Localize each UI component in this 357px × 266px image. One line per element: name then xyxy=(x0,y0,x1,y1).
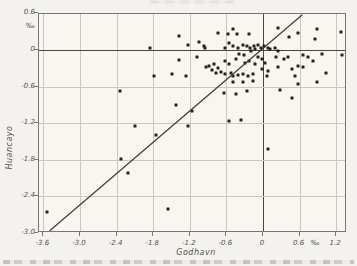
scatter-point xyxy=(231,74,234,77)
y-axis-title: Huancayo xyxy=(5,118,14,178)
scatter-point xyxy=(185,74,188,77)
scatter-point xyxy=(210,68,213,71)
scatter-point xyxy=(167,207,170,210)
scatter-point xyxy=(263,62,266,65)
scatter-point xyxy=(240,118,243,121)
scatter-point xyxy=(312,59,315,62)
scanned-figure-page: -3.6-3.0-2.4-1.8-1.2-0.600.61.20.60-0.6-… xyxy=(0,0,357,266)
scatter-point xyxy=(120,158,123,161)
scatter-point xyxy=(197,41,200,44)
x-axis-tick xyxy=(262,232,263,236)
x-axis-tick xyxy=(152,232,153,236)
scatter-point xyxy=(231,81,234,84)
scatter-point xyxy=(133,124,136,127)
scatter-point xyxy=(297,83,300,86)
scatter-point xyxy=(241,72,244,75)
scatter-point xyxy=(277,66,280,69)
scatter-point xyxy=(238,53,241,56)
scatter-point xyxy=(296,31,299,34)
scatter-point xyxy=(274,46,277,49)
scatter-point xyxy=(119,89,122,92)
scatter-point xyxy=(306,56,309,59)
scatter-point xyxy=(266,69,269,72)
x-axis-tick xyxy=(335,232,336,236)
scatter-point xyxy=(178,34,181,37)
scatter-point xyxy=(249,50,252,53)
scatter-point xyxy=(277,27,280,30)
scatter-point xyxy=(196,56,199,59)
scatter-point xyxy=(325,71,328,74)
scatter-point xyxy=(279,88,282,91)
scatter-point xyxy=(293,74,296,77)
scatter-point xyxy=(222,91,225,94)
scatter-point xyxy=(186,44,189,47)
scatter-point xyxy=(251,79,254,82)
scatter-point xyxy=(313,38,316,41)
scatter-point xyxy=(241,44,244,47)
y-gridline xyxy=(39,123,345,124)
y-axis-tick-label: -0.6 xyxy=(6,82,35,90)
scatter-point xyxy=(213,63,216,66)
scatter-point xyxy=(277,50,280,53)
x-axis-tick-label: 0 xyxy=(260,239,264,247)
scatter-point xyxy=(234,92,237,95)
scatter-point xyxy=(232,28,235,31)
x-axis-tick xyxy=(225,232,226,236)
scatter-point xyxy=(254,63,257,66)
x-axis-tick-label: -0.6 xyxy=(219,239,233,247)
y-axis-tick-label: 0.6 xyxy=(6,8,35,16)
scatter-point xyxy=(246,74,249,77)
x-axis-tick xyxy=(116,232,117,236)
scatter-point xyxy=(263,44,266,47)
x-axis-tick-label: -3.0 xyxy=(72,239,86,247)
scatter-point xyxy=(228,63,231,66)
scatter-point xyxy=(261,58,264,61)
cropped-caption-artifact xyxy=(3,260,354,264)
scatter-point xyxy=(235,33,238,36)
scatter-point xyxy=(175,103,178,106)
scatter-point xyxy=(216,31,219,34)
x-axis-tick-label: -1.2 xyxy=(182,239,196,247)
x-axis-tick-label: -3.6 xyxy=(36,239,50,247)
scatter-point xyxy=(315,81,318,84)
scatter-point xyxy=(208,64,211,67)
x-axis-tick xyxy=(299,232,300,236)
scatter-point xyxy=(186,124,189,127)
scatter-point xyxy=(315,28,318,31)
y-gridline xyxy=(39,160,345,161)
scatter-point xyxy=(170,72,173,75)
scatter-point xyxy=(191,110,194,113)
y-gridline xyxy=(39,87,345,88)
scatter-point xyxy=(177,58,180,61)
scatter-point xyxy=(243,62,246,65)
scatter-point xyxy=(235,58,238,61)
y-axis-tick-label: -3.0 xyxy=(6,228,35,236)
x-axis-title: Godhavn xyxy=(176,248,215,257)
scatter-point xyxy=(287,55,290,58)
scatter-point xyxy=(256,44,259,47)
x-axis-tick xyxy=(42,232,43,236)
scatter-point xyxy=(254,48,257,51)
y-axis-unit-label: ‰ xyxy=(6,22,35,30)
scatter-point xyxy=(288,36,291,39)
scatter-point xyxy=(302,66,305,69)
scatter-point xyxy=(320,53,323,56)
x-axis-tick-label: 0.6 xyxy=(293,239,304,247)
x-axis-unit-label: ‰ xyxy=(310,239,319,247)
scatter-point xyxy=(283,58,286,61)
scatter-point xyxy=(236,74,239,77)
scatter-point xyxy=(297,64,300,67)
scatter-point xyxy=(268,47,271,50)
y-gridline xyxy=(39,196,345,197)
scatter-point xyxy=(216,67,219,70)
scatter-point xyxy=(236,46,239,49)
y-axis-tick-label: 0 xyxy=(6,45,35,53)
scatter-point xyxy=(223,59,226,62)
scatter-plot-area xyxy=(38,13,346,232)
scatter-point xyxy=(241,81,244,84)
scatter-point xyxy=(247,59,250,62)
scatter-point xyxy=(290,97,293,100)
scatter-point xyxy=(126,171,129,174)
scatter-point xyxy=(247,33,250,36)
scatter-point xyxy=(290,67,293,70)
